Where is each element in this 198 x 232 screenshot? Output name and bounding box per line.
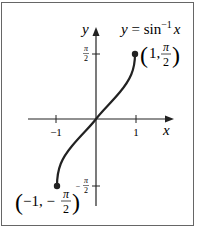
svg-text:2: 2 [163, 55, 169, 69]
annotation-top-point: ( 1, π 2 ) [140, 40, 180, 69]
equation: y = sin−1x [119, 19, 181, 37]
svg-text:π: π [84, 176, 89, 185]
svg-text:π: π [63, 187, 70, 201]
x-tick-label-pos1: 1 [133, 126, 139, 138]
svg-text:1,: 1, [149, 45, 160, 61]
paren-left: ( [140, 42, 148, 68]
paren-right: ) [172, 42, 180, 68]
y-axis-arrow-icon [93, 27, 100, 36]
svg-text:2: 2 [63, 202, 69, 216]
y-tick-label-pi-over-2: π 2 [83, 44, 89, 63]
endpoint-top [132, 51, 138, 57]
svg-text:−1, −: −1, − [23, 193, 55, 209]
paren-right: ) [72, 189, 80, 215]
annotation-bottom-point: ( −1, − π 2 ) [15, 187, 80, 216]
y-axis-label: y [80, 21, 89, 37]
endpoint-bottom [54, 183, 60, 189]
svg-text:2: 2 [84, 186, 88, 195]
x-axis-label: x [162, 122, 170, 138]
x-tick-label-neg1: −1 [50, 126, 62, 138]
paren-left: ( [15, 189, 23, 215]
svg-text:π: π [84, 44, 89, 53]
svg-text:π: π [163, 40, 170, 54]
arcsin-plot: y x y = sin−1x −1 1 π 2 − π 2 ( 1, π 2 )… [0, 0, 198, 232]
svg-text:2: 2 [84, 54, 88, 63]
